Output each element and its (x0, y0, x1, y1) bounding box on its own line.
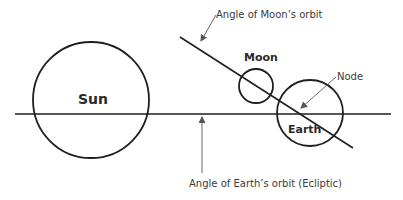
earth-circle (277, 80, 343, 146)
moon-label: Moon (244, 52, 278, 63)
moon-orbit-label: Angle of Moon’s orbit (216, 10, 323, 20)
moon-orbit-arrow (201, 15, 216, 41)
ecliptic-label: Angle of Earth’s orbit (Ecliptic) (189, 179, 342, 189)
sun-label: Sun (78, 92, 108, 106)
earth-label: Earth (288, 124, 321, 135)
node-label: Node (337, 72, 363, 82)
eclipse-diagram (0, 0, 403, 200)
